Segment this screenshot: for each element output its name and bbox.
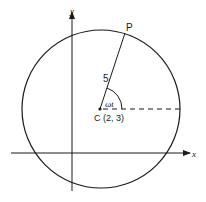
point-p-label: P (126, 22, 133, 33)
center-dot (98, 107, 101, 110)
x-axis-label: x (191, 149, 196, 159)
angle-label: ωt (105, 99, 114, 109)
center-label: C (2, 3) (94, 113, 124, 123)
y-axis-label: y (69, 6, 74, 16)
radius-line (100, 33, 125, 109)
diagram-canvas: x y P 5 ωt C (2, 3) (0, 0, 206, 202)
radius-label: 5 (103, 73, 109, 84)
